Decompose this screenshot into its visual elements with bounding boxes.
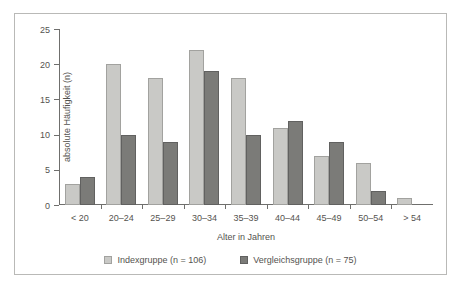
y-tick-label: 5 bbox=[45, 165, 50, 175]
bar bbox=[148, 78, 163, 205]
legend-swatch-vergleich bbox=[240, 256, 248, 264]
plot-area: 0510152025 < 2020–2425–2930–3435–3940–44… bbox=[59, 29, 433, 205]
x-tick-label: 30–34 bbox=[192, 213, 217, 223]
x-tick bbox=[267, 205, 268, 209]
bar bbox=[121, 135, 136, 205]
legend-swatch-index bbox=[104, 256, 112, 264]
bar bbox=[273, 128, 288, 205]
bar bbox=[371, 191, 386, 205]
bar bbox=[231, 78, 246, 205]
bar bbox=[288, 121, 303, 205]
bar bbox=[356, 163, 371, 205]
bar bbox=[65, 184, 80, 205]
y-tick-label: 15 bbox=[40, 95, 50, 105]
bar-group: 50–54 bbox=[350, 163, 392, 205]
bar bbox=[329, 142, 344, 205]
x-tick bbox=[184, 205, 185, 209]
x-axis-title-text: Alter in Jahren bbox=[217, 232, 275, 242]
bar bbox=[204, 71, 219, 205]
chart-legend: Indexgruppe (n = 106)Vergleichsgruppe (n… bbox=[15, 255, 446, 265]
y-tick: 15 bbox=[54, 99, 59, 100]
x-tick-label: 25–29 bbox=[150, 213, 175, 223]
y-tick-label: 10 bbox=[40, 130, 50, 140]
legend-item-label: Indexgruppe (n = 106) bbox=[117, 255, 206, 265]
x-tick-label: 50–54 bbox=[358, 213, 383, 223]
x-tick bbox=[142, 205, 143, 209]
y-tick: 0 bbox=[54, 205, 59, 206]
legend-item: Indexgruppe (n = 106) bbox=[104, 255, 206, 265]
y-tick: 10 bbox=[54, 135, 59, 136]
legend-item: Vergleichsgruppe (n = 75) bbox=[240, 255, 356, 265]
x-tick-label: < 20 bbox=[71, 213, 89, 223]
x-tick bbox=[101, 205, 102, 209]
x-tick bbox=[350, 205, 351, 209]
x-tick-label: > 54 bbox=[403, 213, 421, 223]
chart-figure: absolute Häufigkeit (n) 0510152025 < 202… bbox=[14, 13, 447, 275]
bar bbox=[397, 198, 412, 205]
bar bbox=[106, 64, 121, 205]
bar-group: 25–29 bbox=[142, 78, 184, 205]
bar bbox=[314, 156, 329, 205]
y-tick: 25 bbox=[54, 29, 59, 30]
bar-group: < 20 bbox=[59, 177, 101, 205]
x-tick bbox=[225, 205, 226, 209]
bar bbox=[246, 135, 261, 205]
bar-group: 45–49 bbox=[308, 142, 350, 205]
bar-group: > 54 bbox=[391, 198, 433, 205]
bar-group: 30–34 bbox=[184, 50, 226, 205]
x-tick-label: 20–24 bbox=[109, 213, 134, 223]
x-tick-label: 35–39 bbox=[233, 213, 258, 223]
x-tick bbox=[308, 205, 309, 209]
x-tick-label: 40–44 bbox=[275, 213, 300, 223]
bar bbox=[80, 177, 95, 205]
bar bbox=[163, 142, 178, 205]
x-tick-label: 45–49 bbox=[317, 213, 342, 223]
y-tick-label: 25 bbox=[40, 25, 50, 35]
bar-group: 40–44 bbox=[267, 121, 309, 205]
x-tick bbox=[391, 205, 392, 209]
x-axis-title: Alter in Jahren bbox=[59, 232, 433, 242]
bar-group: 35–39 bbox=[225, 78, 267, 205]
bar bbox=[189, 50, 204, 205]
y-tick: 20 bbox=[54, 64, 59, 65]
y-tick-label: 0 bbox=[45, 201, 50, 211]
bar-group: 20–24 bbox=[101, 64, 143, 205]
legend-item-label: Vergleichsgruppe (n = 75) bbox=[253, 255, 356, 265]
y-tick: 5 bbox=[54, 170, 59, 171]
y-tick-label: 20 bbox=[40, 60, 50, 70]
